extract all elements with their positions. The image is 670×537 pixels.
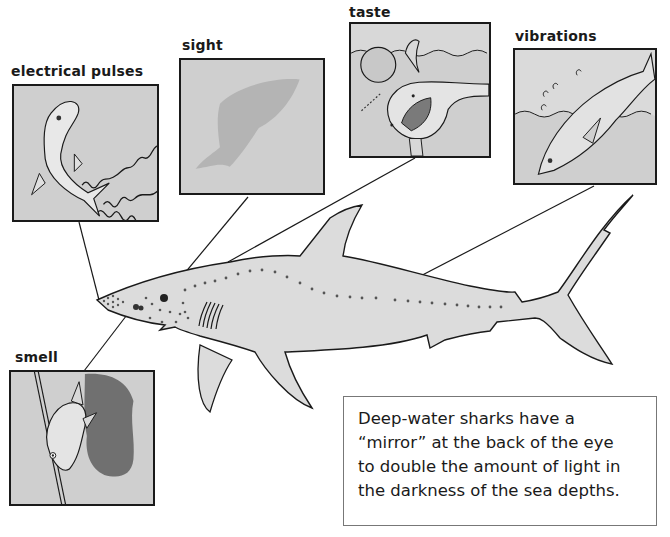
label-vibrations: vibrations bbox=[515, 28, 597, 44]
leader-electrical bbox=[79, 222, 99, 300]
panel-vibrations bbox=[513, 48, 657, 185]
panel-smell bbox=[9, 370, 155, 506]
label-smell: smell bbox=[15, 349, 58, 365]
fact-box: Deep-water sharks have a “mirror” at the… bbox=[343, 396, 657, 526]
fish-splashing-icon bbox=[515, 50, 655, 183]
panel-taste bbox=[349, 22, 491, 158]
fact-line: Deep-water sharks have a bbox=[358, 407, 642, 431]
label-electrical-pulses: electrical pulses bbox=[11, 63, 143, 79]
panel-electrical-pulses bbox=[12, 84, 159, 222]
panel-sight bbox=[179, 58, 325, 195]
shark-body bbox=[97, 195, 633, 412]
shark-biting-icon bbox=[351, 24, 489, 156]
fact-line: “mirror” at the back of the eye bbox=[358, 431, 642, 455]
fact-line: to double the amount of light in bbox=[358, 455, 642, 479]
label-sight: sight bbox=[182, 37, 223, 53]
fish-with-blood-cloud-icon bbox=[11, 372, 153, 504]
label-taste: taste bbox=[349, 4, 391, 20]
faint-fish-silhouette-icon bbox=[181, 60, 323, 193]
fact-line: the darkness of the sea depths. bbox=[358, 479, 642, 503]
fish-pulses-icon bbox=[14, 86, 157, 220]
